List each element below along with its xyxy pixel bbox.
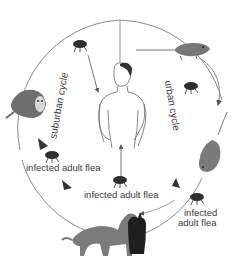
arrow-flea-to-human xyxy=(88,55,98,92)
arrowhead-left-lower xyxy=(62,180,72,190)
flea-icon xyxy=(190,193,204,205)
flea-icon xyxy=(73,40,87,52)
flea-label-bottom: infected adult flea xyxy=(84,190,158,200)
rat-right-icon xyxy=(199,112,227,172)
flea-icon xyxy=(113,176,127,188)
human-figure-icon xyxy=(99,63,146,148)
flea-transmission-diagram: suburban cycle urban cycle infected adul… xyxy=(0,0,239,263)
arrow-right-flea-to-dog xyxy=(140,200,175,214)
flea-label-left: infected adult flea xyxy=(26,163,100,173)
arrowhead-right-lower xyxy=(172,178,180,188)
flea-icon xyxy=(184,82,198,94)
rat-top-icon xyxy=(136,43,210,60)
cat-icon xyxy=(128,212,146,254)
arrow-rat-to-rat xyxy=(200,58,220,105)
flea-label-right-line2: adult flea xyxy=(178,218,217,228)
dog-icon xyxy=(62,214,138,256)
opossum-icon xyxy=(6,90,46,118)
arrowhead-left-upper xyxy=(38,138,48,150)
